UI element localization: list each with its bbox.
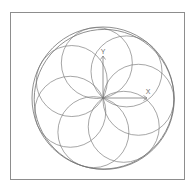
y-axis-label: Y (101, 48, 106, 55)
petal-circle-3 (88, 91, 159, 162)
caption-strip (10, 183, 185, 195)
x-axis-label: X (146, 88, 151, 95)
rosette-drawing: Y X (11, 13, 186, 181)
petal-circle-2 (103, 64, 174, 135)
petal-circle-6 (36, 46, 107, 117)
petal-circle-4 (58, 97, 129, 168)
figure-frame: Y X (10, 12, 185, 180)
